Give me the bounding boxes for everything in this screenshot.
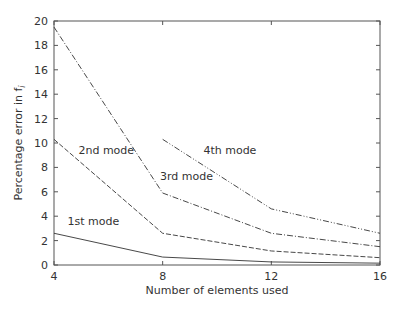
mode-label-4: 4th mode <box>203 144 256 157</box>
line-chart: 02468101214161820481216 1st mode2nd mode… <box>0 0 401 309</box>
y-tick-label: 8 <box>41 161 48 174</box>
mode-label-3: 3rd mode <box>160 170 213 183</box>
annotations: 1st mode2nd mode3rd mode4th mode <box>68 144 257 228</box>
y-tick-label: 10 <box>34 137 48 150</box>
series-line-2 <box>54 139 380 257</box>
series-line-1 <box>54 233 380 263</box>
y-tick-label: 12 <box>34 113 48 126</box>
y-tick-label: 20 <box>34 15 48 28</box>
y-tick-label: 18 <box>34 39 48 52</box>
x-tick-label: 16 <box>373 270 387 283</box>
x-axis-label: Number of elements used <box>146 284 289 297</box>
series-line-4 <box>163 139 380 233</box>
mode-label-1: 1st mode <box>68 215 120 228</box>
x-tick-label: 12 <box>264 270 278 283</box>
y-axis-label: Percentage error in fi <box>12 85 27 201</box>
x-tick-label: 4 <box>51 270 58 283</box>
x-tick-label: 8 <box>159 270 166 283</box>
y-tick-label: 6 <box>41 186 48 199</box>
y-tick-label: 16 <box>34 64 48 77</box>
mode-label-2: 2nd mode <box>78 144 134 157</box>
y-axis-label-subscript: i <box>18 85 27 88</box>
y-tick-label: 0 <box>41 259 48 272</box>
y-tick-label: 4 <box>41 210 48 223</box>
y-tick-label: 14 <box>34 88 48 101</box>
y-tick-label: 2 <box>41 235 48 248</box>
